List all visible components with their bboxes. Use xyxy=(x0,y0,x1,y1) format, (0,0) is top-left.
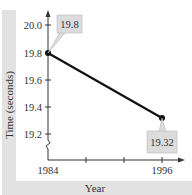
data-series xyxy=(45,50,165,121)
xtick-label: 1996 xyxy=(152,165,173,176)
callout-start: 19.8 xyxy=(48,15,82,53)
ytick-label: 19.8 xyxy=(24,48,42,59)
callout-end-text: 19.32 xyxy=(150,137,174,148)
ytick-label: 19.6 xyxy=(24,75,42,86)
callout-start-text: 19.8 xyxy=(60,19,78,30)
callout-end: 19.32 xyxy=(147,118,177,153)
ytick-label: 19.2 xyxy=(24,129,42,140)
ytick-label: 20.0 xyxy=(24,20,42,31)
y-axis: 20.0 19.8 19.6 19.4 19.2 xyxy=(24,10,51,160)
xtick-label: 1984 xyxy=(38,165,60,176)
data-line xyxy=(48,53,162,118)
axis-break-icon xyxy=(46,140,50,160)
ytick-label: 19.4 xyxy=(24,102,43,113)
x-axis: 1984 1996 xyxy=(38,157,186,176)
chart-plot: 20.0 19.8 19.6 19.4 19.2 1984 1996 19.8 … xyxy=(0,0,192,195)
